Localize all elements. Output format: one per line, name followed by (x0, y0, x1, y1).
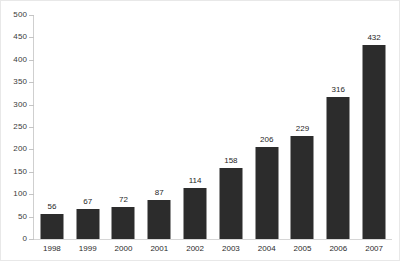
bar-chart: 050100150200250300350400450500 566772871… (0, 0, 400, 261)
bar[interactable] (363, 45, 386, 239)
bar-value-label: 158 (224, 156, 237, 165)
bar[interactable] (184, 188, 207, 239)
bar-group: 432 (356, 15, 392, 239)
x-axis-tick-label: 2000 (106, 244, 142, 253)
bar-value-label: 72 (119, 195, 128, 204)
y-axis-tick-label: 250 (0, 123, 27, 131)
bar-group: 229 (285, 15, 321, 239)
y-axis-tick-label: 500 (0, 11, 27, 19)
x-axis-tick-label: 1999 (70, 244, 106, 253)
bar-value-label: 229 (296, 124, 309, 133)
bar-value-label: 67 (83, 197, 92, 206)
bar-value-label: 432 (367, 33, 380, 42)
bar[interactable] (255, 147, 278, 239)
x-axis-tick-label: 2005 (285, 244, 321, 253)
bar-value-label: 316 (332, 85, 345, 94)
x-axis-tick-label: 2004 (249, 244, 285, 253)
y-axis-tick-label: 50 (0, 213, 27, 221)
plot-area: 56677287114158206229316432 (34, 15, 392, 239)
bar-group: 316 (320, 15, 356, 239)
bar-value-label: 206 (260, 135, 273, 144)
x-axis-tick-label: 2002 (177, 244, 213, 253)
bar[interactable] (219, 168, 242, 239)
bar-group: 206 (249, 15, 285, 239)
x-axis-tick-label: 2001 (141, 244, 177, 253)
bar[interactable] (76, 209, 99, 239)
y-axis-tick (29, 239, 34, 240)
bar-group: 114 (177, 15, 213, 239)
y-axis-tick-label: 450 (0, 33, 27, 41)
bar[interactable] (327, 97, 350, 239)
x-axis-tick-label: 1998 (34, 244, 70, 253)
bar-value-label: 87 (155, 188, 164, 197)
bar-group: 56 (34, 15, 70, 239)
bar-group: 67 (70, 15, 106, 239)
x-axis-tick-label: 2003 (213, 244, 249, 253)
x-axis-line (33, 239, 392, 240)
bar[interactable] (112, 207, 135, 239)
bar[interactable] (148, 200, 171, 239)
bar-group: 72 (106, 15, 142, 239)
y-axis-tick-label: 150 (0, 168, 27, 176)
y-axis-tick-label: 350 (0, 78, 27, 86)
bar-group: 87 (141, 15, 177, 239)
y-axis-tick-label: 400 (0, 56, 27, 64)
bar[interactable] (40, 214, 63, 239)
x-axis-tick-label: 2006 (320, 244, 356, 253)
y-axis-tick-label: 100 (0, 190, 27, 198)
bar-group: 158 (213, 15, 249, 239)
y-axis-tick-label: 200 (0, 145, 27, 153)
bar[interactable] (291, 136, 314, 239)
bar-value-label: 114 (189, 176, 202, 185)
x-axis-tick-label: 2007 (356, 244, 392, 253)
y-axis-tick-label: 300 (0, 101, 27, 109)
bar-value-label: 56 (47, 202, 56, 211)
y-axis-tick-label: 0 (0, 235, 27, 243)
